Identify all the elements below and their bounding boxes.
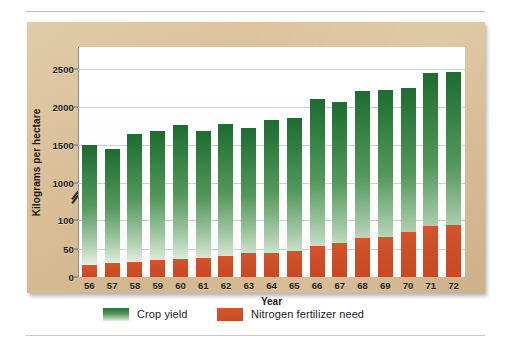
bar-crop-yield [218, 124, 233, 277]
x-tick-label-63: 63 [243, 280, 254, 291]
legend-label: Nitrogen fertilizer need [251, 308, 364, 320]
bar-slot [355, 47, 370, 277]
bar-slot [150, 47, 165, 277]
bar-fertilizer-need [423, 226, 438, 277]
legend-swatch-icon [217, 308, 243, 321]
bar-slot [82, 47, 97, 277]
bar-fertilizer-need [196, 258, 211, 277]
bar-slot [196, 47, 211, 277]
bar-slot [218, 47, 233, 277]
bar-slot [401, 47, 416, 277]
bar-group [78, 47, 465, 277]
bottom-divider-rule [26, 335, 485, 336]
bar-crop-yield [150, 131, 165, 277]
x-tick-label-60: 60 [175, 280, 186, 291]
bar-fertilizer-need [264, 253, 279, 278]
bar-fertilizer-need [241, 253, 256, 277]
x-tick-label-70: 70 [403, 280, 414, 291]
y-tick-label-2000: 2000 [52, 102, 74, 113]
x-tick-label-64: 64 [266, 280, 277, 291]
bar-slot [310, 47, 325, 277]
x-axis-tick-labels: 5657585960616263646566676869707172 [78, 280, 465, 294]
x-tick-label-66: 66 [312, 280, 323, 291]
x-tick-label-61: 61 [198, 280, 209, 291]
bar-slot [332, 47, 347, 277]
x-tick-label-65: 65 [289, 280, 300, 291]
bar-fertilizer-need [378, 237, 393, 277]
y-tick-label-1500: 1500 [52, 140, 74, 151]
bar-slot [127, 47, 142, 277]
bar-fertilizer-need [401, 232, 416, 277]
bar-crop-yield [196, 131, 211, 277]
x-tick-label-62: 62 [221, 280, 232, 291]
x-tick-label-58: 58 [130, 280, 141, 291]
top-divider-rule [26, 11, 485, 12]
bar-fertilizer-need [82, 265, 97, 277]
chart-panel: Kilograms per hectare 050100100015002000… [27, 22, 485, 293]
bar-crop-yield [82, 145, 97, 277]
bar-fertilizer-need [446, 225, 461, 277]
bar-crop-yield [105, 149, 120, 277]
x-tick-label-59: 59 [152, 280, 163, 291]
bar-fertilizer-need [332, 243, 347, 277]
bar-slot [241, 47, 256, 277]
bar-fertilizer-need [287, 251, 302, 277]
x-tick-label-72: 72 [448, 280, 459, 291]
bar-crop-yield [127, 134, 142, 277]
bar-slot [264, 47, 279, 277]
y-tick-label-1000: 1000 [52, 178, 74, 189]
bar-slot [378, 47, 393, 277]
legend-label: Crop yield [137, 308, 188, 320]
bar-fertilizer-need [173, 259, 188, 277]
x-tick-label-57: 57 [107, 280, 118, 291]
legend-item-crop-yield: Crop yield [103, 303, 188, 325]
chart-legend: Crop yieldNitrogen fertilizer need [27, 303, 485, 325]
bar-fertilizer-need [150, 260, 165, 277]
bar-fertilizer-need [310, 246, 325, 277]
y-tick-label-2500: 2500 [52, 64, 74, 75]
x-tick-label-68: 68 [357, 280, 368, 291]
bar-fertilizer-need [218, 256, 233, 277]
y-tick-label-50: 50 [63, 243, 74, 254]
bar-crop-yield [173, 125, 188, 277]
y-tick-label-100: 100 [58, 215, 74, 226]
bar-slot [105, 47, 120, 277]
legend-swatch-icon [103, 308, 129, 321]
x-tick-label-67: 67 [334, 280, 345, 291]
x-tick-label-69: 69 [380, 280, 391, 291]
x-tick-label-71: 71 [426, 280, 437, 291]
legend-item-fertilizer-need: Nitrogen fertilizer need [217, 303, 364, 325]
bar-slot [446, 47, 461, 277]
bar-slot [423, 47, 438, 277]
bar-slot [287, 47, 302, 277]
bar-fertilizer-need [105, 263, 120, 277]
bar-fertilizer-need [127, 262, 142, 277]
plot-area [78, 47, 465, 277]
bar-slot [173, 47, 188, 277]
bar-fertilizer-need [355, 238, 370, 277]
y-axis-ticks: 0501001000150020002500 [27, 47, 74, 277]
x-tick-label-56: 56 [84, 280, 95, 291]
